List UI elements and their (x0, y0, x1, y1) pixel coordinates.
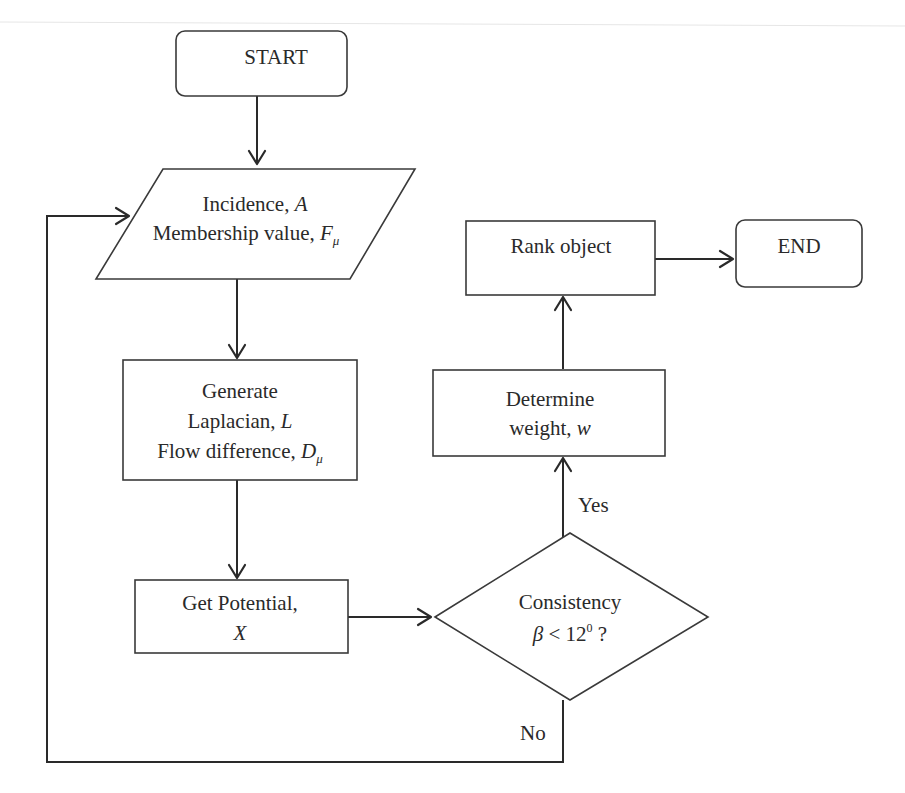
weight-line-2-text: weight, (509, 416, 571, 440)
node-rank: Rank object (466, 221, 655, 295)
decision-line-1: Consistency (519, 590, 622, 614)
generate-line-1: Generate (202, 379, 278, 403)
node-weight: Determine weight, w (433, 370, 665, 456)
edge-rank-to-end (655, 251, 733, 267)
node-decision: Consistency β < 120 ? (435, 533, 708, 700)
variable-F: F (319, 221, 333, 245)
weight-line-2: weight, w (509, 416, 591, 440)
potential-line-1: Get Potential, (182, 591, 297, 615)
process-shape (433, 370, 665, 456)
edge-label-yes: Yes (578, 493, 609, 517)
variable-D: D (300, 439, 316, 463)
input-line-2: Membership value, Fμ (153, 221, 340, 248)
end-label: END (777, 234, 820, 258)
edge-input-to-generate (229, 279, 245, 358)
variable-A: A (293, 192, 308, 216)
variable-w: w (577, 416, 591, 440)
edge-weight-to-rank (555, 297, 571, 369)
subscript-mu: μ (315, 451, 323, 466)
feedback-loop-line (47, 216, 563, 762)
variable-beta: β (532, 622, 544, 646)
node-start: START (176, 31, 347, 96)
weight-line-1: Determine (506, 387, 595, 411)
edge-start-to-input (249, 96, 265, 164)
edge-potential-to-decision (348, 609, 431, 625)
scan-artifact-line (0, 22, 905, 26)
decision-shape (435, 533, 708, 700)
edge-label-no: No (520, 721, 546, 745)
variable-L: L (280, 409, 293, 433)
input-line-2-text: Membership value, (153, 221, 315, 245)
generate-line-2-text: Laplacian, (188, 409, 276, 433)
process-shape (466, 221, 655, 295)
rank-label: Rank object (511, 234, 612, 258)
generate-line-3-text: Flow difference, (157, 439, 295, 463)
input-line-1-text: Incidence, (203, 192, 290, 216)
subscript-mu: μ (332, 233, 340, 248)
start-label: START (244, 45, 308, 69)
flowchart: START Incidence, A Membership value, Fμ … (0, 0, 905, 793)
generate-line-3: Flow difference, Dμ (157, 439, 323, 466)
edge-decision-to-weight-yes (555, 458, 571, 537)
node-potential: Get Potential, X (135, 580, 348, 653)
node-input: Incidence, A Membership value, Fμ (96, 169, 415, 279)
generate-line-2: Laplacian, L (188, 409, 293, 433)
edge-generate-to-potential (229, 480, 245, 578)
decision-line-2: β < 120 ? (532, 621, 607, 646)
question-mark: ? (593, 622, 608, 646)
comparison-text: < 12 (543, 622, 586, 646)
node-end: END (736, 220, 862, 287)
variable-X: X (233, 621, 248, 645)
input-line-1: Incidence, A (203, 192, 308, 216)
node-generate: Generate Laplacian, L Flow difference, D… (123, 360, 357, 480)
